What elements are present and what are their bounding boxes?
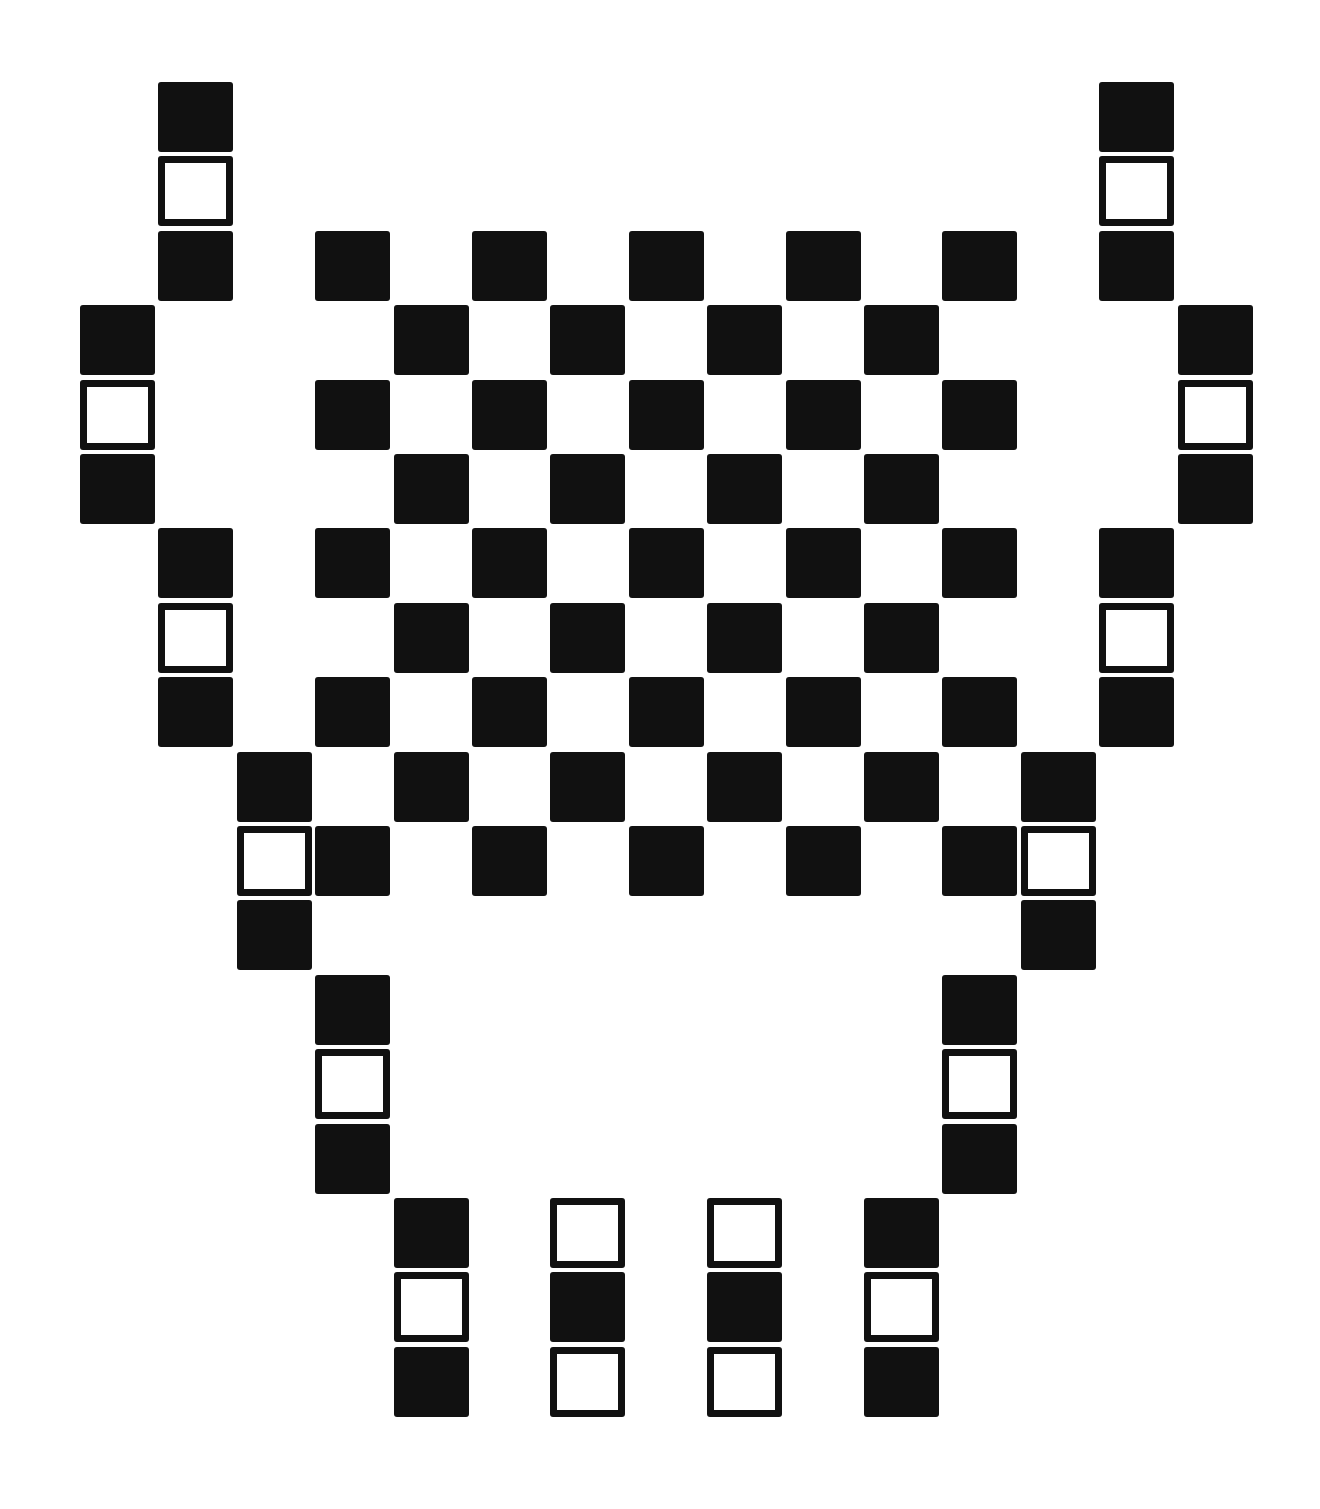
filled-square-tile	[315, 677, 390, 747]
filled-square-tile	[1178, 305, 1253, 375]
filled-square-tile	[942, 826, 1017, 896]
outline-square-tile	[707, 1198, 782, 1268]
filled-square-tile	[864, 454, 939, 524]
outline-square-tile	[1021, 826, 1096, 896]
filled-square-tile	[394, 752, 469, 822]
filled-square-tile	[550, 752, 625, 822]
filled-square-tile	[786, 380, 861, 450]
filled-square-tile	[942, 1124, 1017, 1194]
filled-square-tile	[707, 454, 782, 524]
filled-square-tile	[1021, 900, 1096, 970]
filled-square-tile	[629, 380, 704, 450]
filled-square-tile	[158, 677, 233, 747]
filled-square-tile	[707, 305, 782, 375]
filled-square-tile	[1021, 752, 1096, 822]
filled-square-tile	[394, 305, 469, 375]
filled-square-tile	[942, 677, 1017, 747]
filled-square-tile	[629, 826, 704, 896]
filled-square-tile	[1178, 454, 1253, 524]
filled-square-tile	[942, 528, 1017, 598]
outline-square-tile	[158, 156, 233, 226]
filled-square-tile	[158, 231, 233, 301]
filled-square-tile	[707, 752, 782, 822]
outline-square-tile	[237, 826, 312, 896]
filled-square-tile	[394, 603, 469, 673]
outline-square-tile	[1178, 380, 1253, 450]
filled-square-tile	[864, 603, 939, 673]
filled-square-tile	[394, 1198, 469, 1268]
filled-square-tile	[942, 975, 1017, 1045]
outline-square-tile	[1099, 603, 1174, 673]
filled-square-tile	[786, 826, 861, 896]
outline-square-tile	[942, 1049, 1017, 1119]
outline-square-tile	[80, 380, 155, 450]
outline-square-tile	[550, 1347, 625, 1417]
filled-square-tile	[394, 1347, 469, 1417]
filled-square-tile	[707, 1272, 782, 1342]
filled-square-tile	[864, 752, 939, 822]
outline-square-tile	[864, 1272, 939, 1342]
outline-square-tile	[1099, 156, 1174, 226]
filled-square-tile	[158, 528, 233, 598]
filled-square-tile	[472, 231, 547, 301]
outline-square-tile	[315, 1049, 390, 1119]
filled-square-tile	[237, 752, 312, 822]
filled-square-tile	[942, 380, 1017, 450]
filled-square-tile	[237, 900, 312, 970]
outline-square-tile	[394, 1272, 469, 1342]
filled-square-tile	[864, 1198, 939, 1268]
filled-square-tile	[472, 380, 547, 450]
filled-square-tile	[629, 677, 704, 747]
filled-square-tile	[80, 305, 155, 375]
filled-square-tile	[786, 528, 861, 598]
filled-square-tile	[1099, 231, 1174, 301]
filled-square-tile	[315, 380, 390, 450]
filled-square-tile	[1099, 528, 1174, 598]
filled-square-tile	[315, 975, 390, 1045]
filled-square-tile	[707, 603, 782, 673]
filled-square-tile	[472, 826, 547, 896]
filled-square-tile	[864, 305, 939, 375]
filled-square-tile	[1099, 82, 1174, 152]
filled-square-tile	[629, 528, 704, 598]
filled-square-tile	[315, 826, 390, 896]
filled-square-tile	[1099, 677, 1174, 747]
outline-square-tile	[707, 1347, 782, 1417]
filled-square-tile	[550, 454, 625, 524]
filled-square-tile	[629, 231, 704, 301]
filled-square-tile	[550, 603, 625, 673]
filled-square-tile	[315, 1124, 390, 1194]
filled-square-tile	[315, 528, 390, 598]
filled-square-tile	[394, 454, 469, 524]
tile-pattern-canvas	[0, 0, 1320, 1509]
filled-square-tile	[472, 528, 547, 598]
filled-square-tile	[158, 82, 233, 152]
filled-square-tile	[472, 677, 547, 747]
filled-square-tile	[864, 1347, 939, 1417]
filled-square-tile	[550, 305, 625, 375]
outline-square-tile	[158, 603, 233, 673]
filled-square-tile	[786, 231, 861, 301]
outline-square-tile	[550, 1198, 625, 1268]
filled-square-tile	[80, 454, 155, 524]
filled-square-tile	[550, 1272, 625, 1342]
filled-square-tile	[315, 231, 390, 301]
filled-square-tile	[786, 677, 861, 747]
filled-square-tile	[942, 231, 1017, 301]
